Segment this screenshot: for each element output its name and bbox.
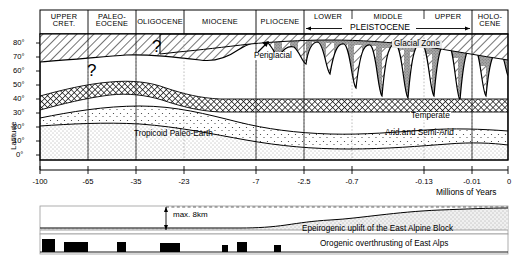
x-tick-0-13: -0.13 [415,178,432,186]
y-tick-70: 70° [13,53,24,61]
label-temperate: Temperate [410,112,451,120]
x-tick-100: -100 [32,178,47,186]
epoch-label-oligocene: OLIGOCENE [137,18,183,25]
label-max-uplift: max. 8km [173,211,208,219]
epoch-label-upper-cret: UPPERCRET. [51,13,77,28]
x-axis [40,160,508,174]
paleoclimate-figure: UPPERCRET. PALEO-EOCENE OLIGOCENE MIOCEN… [0,0,532,259]
epoch-label-upper-pleisto: UPPER [435,13,461,20]
label-arid: Arid and Semi-Arid [385,129,454,137]
x-tick-2-5: -2.5 [297,178,310,186]
x-tick-7: -7 [253,178,260,186]
y-tick-40: 40° [13,95,24,103]
epoch-label-miocene: MIOCENE [202,18,238,25]
y-tick-50: 50° [13,81,24,89]
y-tick-30: 30° [13,109,24,117]
epoch-label-paleo-eocene: PALEO-EOCENE [96,13,128,28]
epoch-label-middle: MIDDLE [373,13,402,20]
main-chart-svg [0,0,532,200]
epoch-label-holocene: HOLO-CENE [478,13,502,28]
epoch-label-pleistocene: PLEISTOCENE [350,23,410,32]
epoch-label-lower: LOWER [314,13,342,20]
question-mark-oligocene: ? [152,38,161,55]
x-tick-35: -35 [131,178,142,186]
y-tick-0: 0° [16,151,23,159]
x-tick-65: -65 [83,178,94,186]
label-epeirogenic-uplift: Epeirogenic uplift of the East Alpine Bl… [302,225,453,233]
x-tick-0-7: -0.7 [345,178,358,186]
y-tick-80: 80° [13,39,24,47]
y-axis-title: Latitude [10,122,18,150]
x-tick-0: 0 [507,178,511,186]
x-axis-title: Millions of Years [436,188,497,196]
question-mark-paleo: ? [87,62,96,79]
label-periglacial: Periglacial [253,52,293,60]
label-glacial-zone: Glacial Zone [392,40,442,48]
y-axis-ticks [36,43,40,155]
x-tick-0-01: -0.01 [463,178,480,186]
label-tropicoid: Tropicoid Paleo-Earth [134,130,213,138]
x-tick-23: -23 [179,178,190,186]
y-tick-60: 60° [13,67,24,75]
epoch-label-pliocene: PLIOCENE [261,18,300,25]
label-orogenic-overthrusting: Orogenic overthrusting of East Alps [320,240,448,248]
